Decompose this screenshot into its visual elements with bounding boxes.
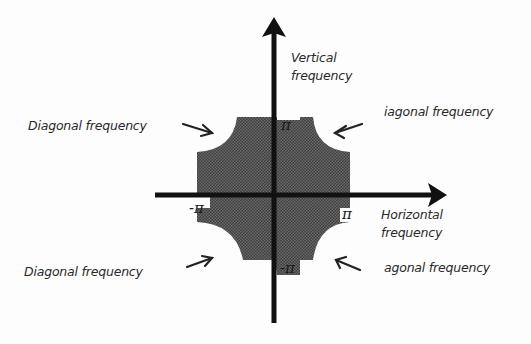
diagonal-label-top-left: Diagonal frequency <box>28 118 147 133</box>
vertical-axis-label-line2: frequency <box>291 68 352 83</box>
arrow-bottom-right-icon <box>336 257 360 270</box>
arrow-top-left-icon <box>183 124 212 136</box>
tick-left-minus-pi: -π <box>189 199 204 217</box>
arrow-top-right-icon <box>335 124 362 138</box>
frequency-diagram <box>0 0 531 344</box>
diagonal-label-bottom-right: agonal frequency <box>384 260 490 275</box>
tick-top-pi: π <box>281 116 291 134</box>
horizontal-axis-label-line1: Horizontal <box>381 207 443 222</box>
tick-bottom-minus-pi: -π <box>280 259 295 277</box>
diagonal-label-top-right: iagonal frequency <box>384 104 493 119</box>
tick-right-pi: π <box>342 205 352 223</box>
arrow-bottom-left-icon <box>187 256 212 267</box>
diagonal-label-bottom-left: Diagonal frequency <box>24 264 143 279</box>
vertical-axis-label-line1: Vertical <box>291 50 336 65</box>
horizontal-axis-label-line2: frequency <box>381 225 442 240</box>
